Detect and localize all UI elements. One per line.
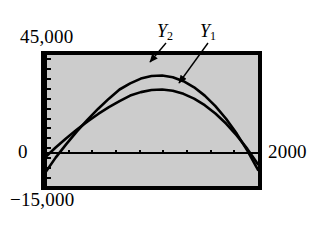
y-axis-min-label: −15,000 — [10, 190, 74, 209]
series-label-y1-subscript: 1 — [210, 29, 216, 43]
plot-surface — [45, 55, 258, 186]
plot-canvas — [45, 55, 258, 186]
y-axis-max-label: 45,000 — [20, 27, 73, 46]
series-label-y1: Y1 — [200, 22, 216, 45]
series-group — [45, 76, 258, 173]
series-label-y2: Y2 — [157, 22, 173, 45]
y-axis-zero-label: 0 — [18, 142, 28, 161]
series-label-y2-subscript: 2 — [167, 29, 173, 43]
series-label-y1-text: Y — [200, 21, 210, 41]
x-axis-max-label: 2000 — [268, 142, 307, 161]
calculator-graph-screenshot: 45,000 0 −15,000 2000 Y2 Y1 — [0, 0, 323, 225]
series-label-y2-text: Y — [157, 21, 167, 41]
plot-frame — [41, 51, 262, 190]
